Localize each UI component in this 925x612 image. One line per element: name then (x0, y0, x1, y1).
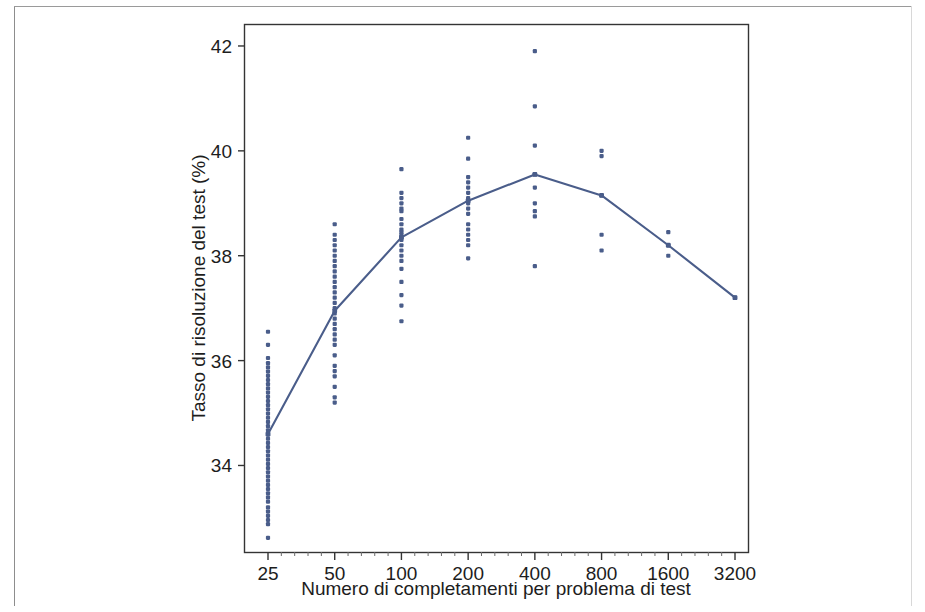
scatter-point (333, 332, 337, 336)
scatter-point (399, 167, 403, 171)
scatter-point (333, 327, 337, 331)
y-tick-label: 40 (211, 141, 232, 162)
scatter-point (333, 285, 337, 289)
scatter-point (466, 227, 470, 231)
scatter-point (333, 374, 337, 378)
scatter-point (333, 343, 337, 347)
scatter-point (333, 248, 337, 252)
scatter-point (266, 495, 270, 499)
scatter-point (266, 395, 270, 399)
scatter-point (399, 222, 403, 226)
scatter-point (333, 395, 337, 399)
scatter-point (599, 248, 603, 252)
scatter-point (666, 254, 670, 258)
scatter-point (333, 259, 337, 263)
scatter-point (266, 483, 270, 487)
scatter-point (266, 453, 270, 457)
scatter-point (333, 301, 337, 305)
scatter-point (399, 201, 403, 205)
scatter-point (333, 269, 337, 273)
scatter-point (266, 491, 270, 495)
scatter-point (533, 185, 537, 189)
scatter-point (333, 317, 337, 321)
scatter-point (399, 243, 403, 247)
scatter-point (533, 264, 537, 268)
scatter-point (266, 374, 270, 378)
scatter-point (333, 264, 337, 268)
y-tick-label: 34 (211, 455, 233, 476)
mean-trend-line (268, 174, 735, 434)
scatter-point (266, 343, 270, 347)
scatter-point (266, 365, 270, 369)
scatter-point (266, 470, 270, 474)
scatter-chart: 3436384042 255010020040080016003200 Nume… (0, 0, 925, 612)
scatter-point (333, 400, 337, 404)
scatter-point (399, 196, 403, 200)
scatter-point (266, 416, 270, 420)
scatter-point (333, 385, 337, 389)
x-tick-label: 3200 (714, 563, 756, 584)
scatter-point (533, 209, 537, 213)
scatter-point (266, 479, 270, 483)
scatter-point (399, 254, 403, 258)
scatter-point (399, 191, 403, 195)
scatter-point (266, 382, 270, 386)
scatter-points-group (266, 49, 738, 540)
scatter-point (266, 390, 270, 394)
scatter-point (599, 149, 603, 153)
scatter-point (333, 222, 337, 226)
scatter-point (333, 369, 337, 373)
scatter-point (466, 191, 470, 195)
scatter-point (599, 154, 603, 158)
scatter-point (333, 322, 337, 326)
scatter-point (466, 243, 470, 247)
scatter-point (266, 458, 270, 462)
scatter-point (399, 248, 403, 252)
scatter-point (599, 233, 603, 237)
scatter-point (533, 144, 537, 148)
y-axis-title: Tasso di risoluzione del test (%) (188, 154, 209, 421)
y-axis-ticks: 3436384042 (211, 36, 245, 477)
scatter-point (266, 437, 270, 441)
scatter-point (266, 466, 270, 470)
scatter-point (266, 403, 270, 407)
scatter-point (466, 256, 470, 260)
scatter-point (266, 505, 270, 509)
scatter-point (266, 386, 270, 390)
scatter-point (333, 233, 337, 237)
scatter-point (266, 514, 270, 518)
scatter-point (333, 275, 337, 279)
scatter-point (399, 259, 403, 263)
y-tick-label: 36 (211, 351, 232, 372)
scatter-point (333, 353, 337, 357)
scatter-point (399, 303, 403, 307)
scatter-point (466, 206, 470, 210)
scatter-point (466, 136, 470, 140)
scatter-point (266, 407, 270, 411)
y-tick-label: 42 (211, 36, 232, 57)
scatter-point (333, 296, 337, 300)
scatter-point (399, 319, 403, 323)
scatter-point (266, 361, 270, 365)
scatter-point (466, 238, 470, 242)
scatter-point (266, 518, 270, 522)
scatter-point (266, 500, 270, 504)
scatter-point (666, 230, 670, 234)
scatter-point (266, 441, 270, 445)
scatter-point (533, 49, 537, 53)
scatter-point (399, 267, 403, 271)
figure-page: 3436384042 255010020040080016003200 Nume… (0, 0, 925, 612)
scatter-point (266, 487, 270, 491)
scatter-point (399, 217, 403, 221)
scatter-point (266, 462, 270, 466)
scatter-point (466, 233, 470, 237)
scatter-point (266, 411, 270, 415)
scatter-point (466, 212, 470, 216)
scatter-point (333, 364, 337, 368)
y-tick-label: 38 (211, 246, 232, 267)
x-axis-title: Numero di completamenti per problema di … (301, 578, 691, 599)
scatter-point (533, 214, 537, 218)
scatter-point (466, 157, 470, 161)
scatter-point (333, 254, 337, 258)
scatter-point (466, 222, 470, 226)
